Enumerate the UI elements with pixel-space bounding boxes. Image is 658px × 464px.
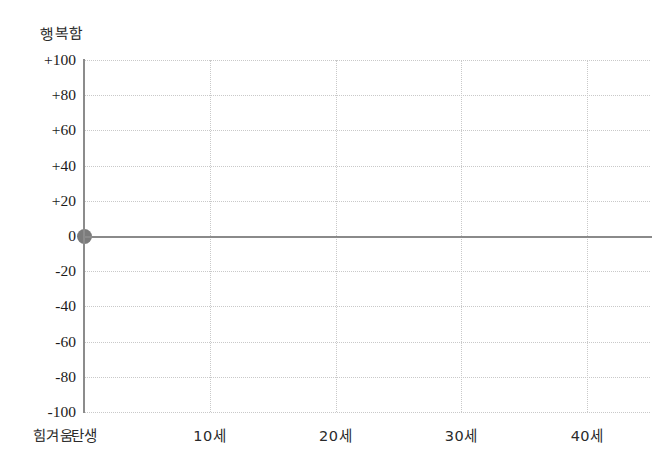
x-axis-tick-labels: 탄생10세20세30세40세: [0, 424, 658, 452]
gridline-y-+100: [84, 60, 650, 61]
y-tick-+60: +60: [18, 122, 76, 138]
y-tick-+40: +40: [18, 158, 76, 174]
x-tick-30세: 30세: [445, 424, 478, 445]
y-tick--20: -20: [18, 263, 76, 279]
gridline-y--100: [84, 412, 650, 413]
gridline-y-+20: [84, 201, 650, 202]
y-tick-0: 0: [18, 228, 76, 244]
y-tick--80: -80: [18, 369, 76, 385]
gridline-y-+40: [84, 166, 650, 167]
gridline-y-+60: [84, 130, 650, 131]
y-tick-+20: +20: [18, 193, 76, 209]
gridline-y-+80: [84, 95, 650, 96]
y-tick-+100: +100: [18, 52, 76, 68]
y-tick--60: -60: [18, 334, 76, 350]
x-tick-20세: 20세: [319, 424, 352, 445]
x-tick-40세: 40세: [571, 424, 604, 445]
x-tick-10세: 10세: [193, 424, 226, 445]
gridline-y--80: [84, 377, 650, 378]
y-axis-tick-labels: +100+80+60+40+200-20-40-60-80-100: [14, 60, 76, 412]
gridline-y--20: [84, 271, 650, 272]
y-axis-caption-happy: 행복함: [40, 21, 84, 43]
y-tick--40: -40: [18, 298, 76, 314]
y-tick-+80: +80: [18, 87, 76, 103]
zero-baseline: [84, 236, 652, 238]
happiness-life-chart: 행복함 +100+80+60+40+200-20-40-60-80-100 탄생…: [0, 0, 658, 464]
y-axis-caption-hard: 힘겨움: [33, 424, 73, 446]
y-tick--100: -100: [18, 404, 76, 420]
x-tick-탄생: 탄생: [71, 424, 98, 445]
gridline-y--40: [84, 306, 650, 307]
gridline-y--60: [84, 342, 650, 343]
